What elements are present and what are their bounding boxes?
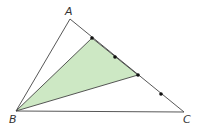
label-b: B [9, 113, 17, 126]
shaded-triangle [16, 38, 138, 111]
point-1 [90, 36, 94, 40]
triangle-diagram: A B C [0, 0, 200, 128]
point-3 [136, 73, 140, 77]
point-2 [113, 55, 117, 59]
point-4 [159, 92, 163, 96]
label-a: A [64, 5, 73, 18]
label-c: C [183, 113, 191, 126]
